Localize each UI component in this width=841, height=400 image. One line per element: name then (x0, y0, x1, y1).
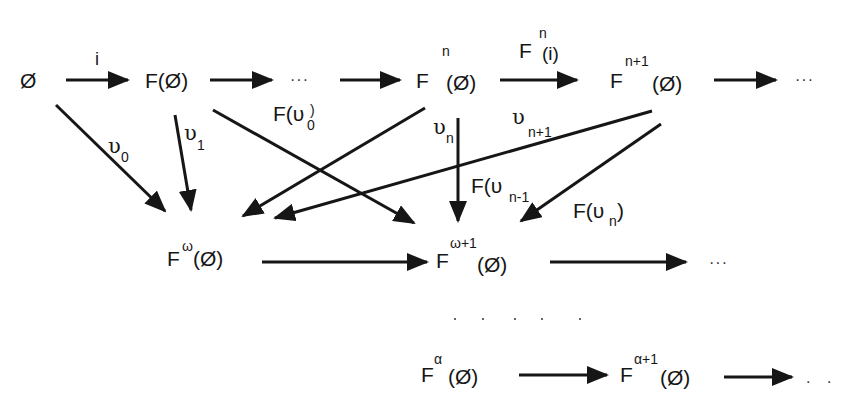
edge-label-fn-i-base: F (519, 40, 532, 61)
ellipsis-row3-end: . . (806, 370, 837, 386)
node-fn-arg: (Ø) (446, 72, 476, 93)
node-fomega1-sup: ω+1 (450, 236, 477, 250)
edge-label-f-upsilon-n-sub: n (609, 214, 617, 228)
ellipsis-dot (514, 318, 516, 320)
edge-label-fn-i-sup: n (539, 26, 547, 40)
node-fn1-sup: n+1 (625, 54, 649, 68)
ellipsis-dot (579, 318, 581, 320)
node-fomega1-base: F (436, 250, 449, 271)
arrow-upsilon0 (56, 105, 165, 211)
ellipsis-row2-end: ··· (709, 255, 728, 271)
node-fomega-base: F (167, 248, 180, 269)
edge-label-f-upsilon-n-minus1-sub: n-1 (509, 190, 529, 204)
edge-label-upsilon0-sub: 0 (121, 150, 129, 164)
edge-label-f-upsilon0-sub: 0 (307, 118, 315, 132)
node-empty-set: Ø (20, 70, 36, 91)
node-falpha1-arg: (Ø) (660, 367, 690, 388)
edge-label-upsilon-n1-sub: n+1 (528, 125, 552, 139)
edge-label-f-upsilon-n-minus1-pre: F(υ (471, 175, 502, 196)
edge-label-f-upsilon-n-pre: F(υ (573, 200, 604, 221)
edge-label-upsilon-n-sym: υ (433, 117, 446, 138)
edge-label-upsilon-n-sub: n (446, 131, 454, 145)
node-fn-base: F (416, 70, 429, 91)
edge-label-f-upsilon-n-post: ) (617, 200, 624, 221)
ellipsis-dot (454, 318, 456, 320)
edge-label-upsilon1-sym: υ (184, 123, 197, 144)
ellipsis-row1: ··· (290, 72, 309, 88)
ellipsis-dot (541, 318, 543, 320)
node-falpha1-base: F (620, 364, 633, 385)
edge-label-upsilon1-sub: 1 (197, 138, 205, 152)
edge-label-f-upsilon0-post: ) (310, 103, 315, 117)
edge-label-f-upsilon0-pre: F(υ (273, 103, 304, 124)
ellipsis-row1-end: ··· (795, 72, 814, 88)
node-fomega-arg: (Ø) (193, 248, 223, 269)
ellipsis-dot (482, 318, 484, 320)
node-fn1-arg: (Ø) (652, 73, 682, 94)
node-falpha-sup: α (434, 352, 442, 366)
node-fn1-base: F (610, 70, 623, 91)
edge-label-i: i (95, 50, 99, 68)
node-f-empty: F(Ø) (145, 70, 188, 91)
edge-label-upsilon0-sym: υ (108, 136, 121, 157)
diagram-canvas (0, 0, 841, 400)
node-falpha-arg: (Ø) (448, 366, 478, 387)
node-fomega-sup: ω (182, 239, 193, 253)
node-fomega1-arg: (Ø) (477, 254, 507, 275)
node-falpha1-sup: α+1 (634, 352, 658, 366)
edge-label-upsilon-n1-sym: υ (512, 107, 525, 128)
node-falpha-base: F (421, 364, 434, 385)
node-fn-sup: n (442, 44, 450, 58)
edge-label-fn-i-arg: (i) (542, 44, 559, 63)
